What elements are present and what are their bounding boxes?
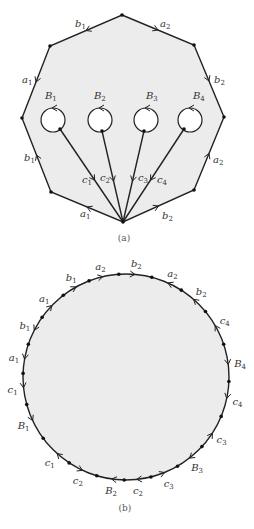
vertex-dot <box>222 343 226 347</box>
vertex-dot <box>61 293 65 297</box>
vertex-dot <box>176 464 180 468</box>
vertex-dot <box>25 403 29 407</box>
truncated-body-text <box>8 521 248 529</box>
edge-label-a1: a1 <box>39 293 49 306</box>
vertex-dot <box>117 272 121 276</box>
vertex-dot <box>122 478 126 482</box>
edge-label-c2: c2 <box>73 475 83 488</box>
vertex-dot <box>40 315 44 319</box>
caption-b: (b) <box>119 503 132 513</box>
edge-label-B2: B2 <box>104 485 117 498</box>
polygon-circle <box>23 274 229 480</box>
vertex-dot <box>67 461 71 465</box>
edge-label-c4: c4 <box>233 396 244 409</box>
vertex-dot <box>204 310 208 314</box>
vertex-dot <box>200 445 204 449</box>
edge-label-c2: c2 <box>133 485 143 498</box>
vertex-dot <box>27 343 31 347</box>
vertex-dot <box>95 474 99 478</box>
vertex-dot <box>150 275 154 279</box>
vertex-dot <box>219 415 223 419</box>
edge-label-a1: a1 <box>9 352 19 365</box>
edge-label-c4: c4 <box>220 315 231 328</box>
edge-label-b2: b2 <box>131 258 142 271</box>
edge-label-B3: B3 <box>190 462 203 475</box>
edge-label-a2: a2 <box>167 268 177 281</box>
vertex-dot <box>87 279 91 283</box>
edge-label-b2: b2 <box>196 286 207 299</box>
vertex-dot <box>21 372 25 376</box>
edge-label-c1: c1 <box>45 457 55 470</box>
vertex-dot <box>227 380 231 384</box>
edge-label-B1: B1 <box>17 420 30 433</box>
diagram-b: b2a2b2c4B4c4c3B3c3c2B2c2c1B1c1a1b1a1b1a2… <box>0 0 254 529</box>
edge-label-a2: a2 <box>95 261 105 274</box>
edge-label-c1: c1 <box>8 384 18 397</box>
edge-label-c3: c3 <box>217 434 227 447</box>
edge-label-c3: c3 <box>164 478 174 491</box>
vertex-dot <box>149 475 153 479</box>
vertex-dot <box>41 436 45 440</box>
edge-label-b1: b1 <box>66 272 77 285</box>
edge-label-B4: B4 <box>233 358 246 371</box>
vertex-dot <box>180 288 184 292</box>
edge-label-b1: b1 <box>19 320 30 333</box>
